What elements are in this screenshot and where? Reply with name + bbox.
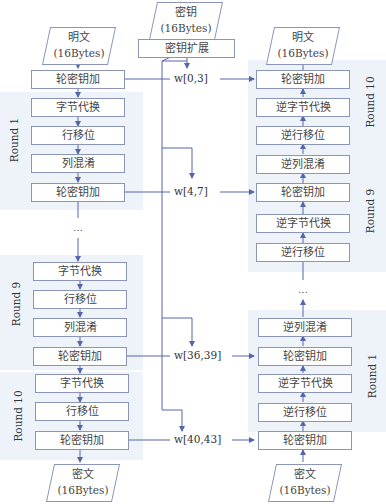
dec-round10-label: Round 10 xyxy=(364,76,376,127)
enc-r9-shiftrows: 行移位 xyxy=(33,290,127,309)
dec-round9-label: Round 9 xyxy=(364,189,376,234)
enc-output-size: (16Bytes) xyxy=(50,483,116,497)
dec-plaintext-output: 明文 (16Bytes) xyxy=(270,27,336,65)
roundkey-w0-3: w[0,3] xyxy=(172,72,210,84)
enc-input-title: 明文 xyxy=(46,31,112,45)
enc-ellipsis: … xyxy=(73,222,83,233)
enc-r1-mixcolumns: 列混淆 xyxy=(31,154,125,173)
enc-r1-addroundkey: 轮密钥加 xyxy=(31,183,125,202)
dec-output-size: (16Bytes) xyxy=(270,46,336,60)
enc-r9-subbytes: 字节代换 xyxy=(33,262,127,281)
dec-r10-addroundkey: 轮密钥加 xyxy=(256,70,350,89)
key-input: 密钥 (16Bytes) xyxy=(153,2,219,40)
enc-round10-label: Round 10 xyxy=(12,390,24,441)
enc-r1-subbytes: 字节代换 xyxy=(31,98,125,117)
enc-initial-addroundkey: 轮密钥加 xyxy=(31,70,125,89)
roundkey-w4-7: w[4,7] xyxy=(172,185,210,197)
dec-input-size: (16Bytes) xyxy=(272,483,338,497)
dec-r1-invshiftrows: 逆行移位 xyxy=(258,403,352,422)
dec-r1-invsubbytes: 逆字节代换 xyxy=(258,374,352,393)
enc-round1-label: Round 1 xyxy=(8,118,20,163)
dec-r9-invshiftrows: 逆行移位 xyxy=(256,243,350,262)
enc-output-title: 密文 xyxy=(50,468,116,482)
dec-ellipsis: … xyxy=(298,284,308,295)
dec-r9-addroundkey: 轮密钥加 xyxy=(256,183,350,202)
dec-ciphertext-input: 密文 (16Bytes) xyxy=(272,464,338,502)
dec-r1-invmixcolumns: 逆列混淆 xyxy=(258,318,352,337)
roundkey-w36-39: w[36,39] xyxy=(172,349,223,361)
key-expansion-box: 密钥扩展 xyxy=(138,39,235,58)
dec-r1-addroundkey: 轮密钥加 xyxy=(258,347,352,366)
dec-r10-invshiftrows: 逆行移位 xyxy=(256,126,350,145)
enc-round9-label: Round 9 xyxy=(10,282,22,327)
key-size: (16Bytes) xyxy=(153,21,219,35)
enc-r10-addroundkey: 轮密钥加 xyxy=(35,431,129,450)
roundkey-w40-43: w[40,43] xyxy=(172,433,223,445)
enc-plaintext-input: 明文 (16Bytes) xyxy=(46,27,112,65)
enc-r10-subbytes: 字节代换 xyxy=(35,374,129,393)
enc-input-size: (16Bytes) xyxy=(46,46,112,60)
enc-r10-shiftrows: 行移位 xyxy=(35,402,129,421)
enc-ciphertext-output: 密文 (16Bytes) xyxy=(50,464,116,502)
dec-r9-invsubbytes: 逆字节代换 xyxy=(256,214,350,233)
dec-r9-invmixcolumns: 逆列混淆 xyxy=(256,155,350,174)
dec-round1-label: Round 1 xyxy=(366,354,378,399)
enc-r1-shiftrows: 行移位 xyxy=(31,126,125,145)
dec-output-title: 明文 xyxy=(270,31,336,45)
enc-r9-addroundkey: 轮密钥加 xyxy=(33,347,127,366)
dec-final-addroundkey: 轮密钥加 xyxy=(258,431,352,450)
key-title: 密钥 xyxy=(153,6,219,20)
dec-r10-invsubbytes: 逆字节代换 xyxy=(256,98,350,117)
dec-input-title: 密文 xyxy=(272,468,338,482)
enc-r9-mixcolumns: 列混淆 xyxy=(33,318,127,337)
